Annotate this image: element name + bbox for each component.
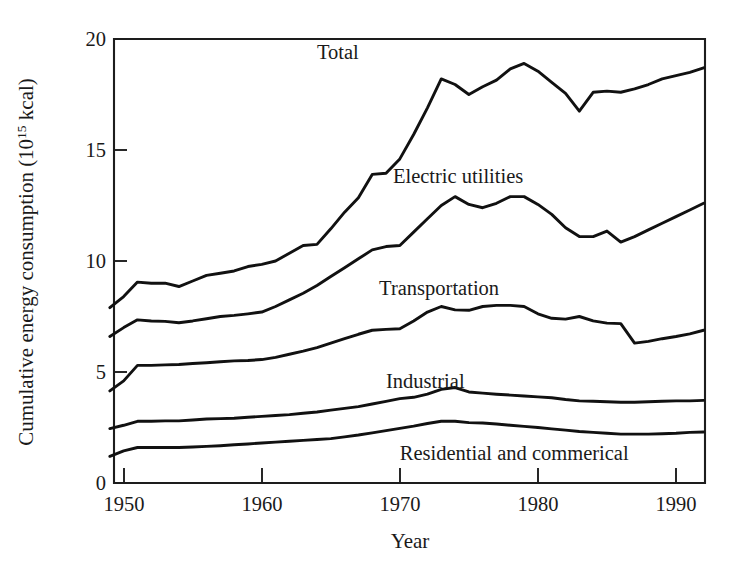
y-tick-label-5: 5 [96, 361, 106, 383]
x-axis-ticks [124, 468, 676, 483]
energy-consumption-chart-figure: Cumulative energy consumption (1015 kcal… [0, 0, 742, 578]
y-axis-title-suffix: kcal) [14, 78, 38, 125]
y-tick-label-15: 15 [86, 139, 107, 161]
series-label-transportation: Transportation [379, 277, 499, 300]
series-line-industrial [110, 388, 704, 429]
x-axis-tick-labels: 1950 1960 1970 1980 1990 [104, 493, 697, 515]
plot-border [114, 39, 705, 483]
x-tick-label-1990: 1990 [656, 493, 697, 515]
y-axis-title-exponent: 15 [14, 125, 29, 139]
y-tick-label-20: 20 [86, 28, 107, 50]
x-tick-label-1970: 1970 [380, 493, 421, 515]
x-axis-title: Year [391, 529, 430, 553]
chart-canvas: Cumulative energy consumption (1015 kcal… [0, 0, 742, 578]
y-tick-label-0: 0 [96, 472, 106, 494]
y-axis-ticks [114, 39, 127, 483]
x-tick-label-1950: 1950 [104, 493, 145, 515]
series-line-electric-utilities [110, 197, 704, 337]
series-label-industrial: Industrial [386, 370, 465, 392]
series-label-electric-utilities: Electric utilities [393, 165, 523, 187]
series-lines [110, 63, 704, 456]
y-tick-label-10: 10 [86, 250, 107, 272]
y-axis-title: Cumulative energy consumption (1015 kcal… [14, 78, 38, 446]
svg-text:Cumulative energy consumption: Cumulative energy consumption (1015 kcal… [14, 78, 38, 446]
y-axis-tick-labels: 0 5 10 15 20 [86, 28, 107, 494]
x-tick-label-1980: 1980 [518, 493, 559, 515]
axis-frame [114, 39, 705, 483]
x-tick-label-1960: 1960 [242, 493, 283, 515]
y-axis-title-prefix: Cumulative energy consumption (10 [14, 139, 38, 446]
series-label-residential-and-commerical: Residential and commerical [400, 442, 629, 464]
series-label-total: Total [317, 41, 359, 63]
